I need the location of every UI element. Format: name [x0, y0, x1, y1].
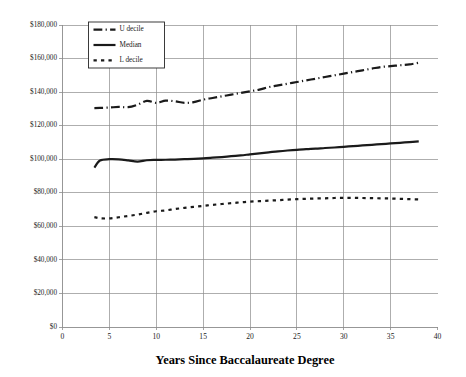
data-series-group [94, 63, 418, 219]
x-tick-label: 5 [107, 332, 111, 341]
gridlines-vertical [109, 25, 390, 327]
series-line-median [94, 141, 418, 167]
chart-canvas: $0$20,000$40,000$60,000$80,000$100,000$1… [0, 0, 466, 377]
x-axis-tick-marks [63, 327, 438, 330]
series-line-u-decile [94, 63, 418, 108]
x-tick-label: 35 [387, 332, 395, 341]
y-tick-label: $180,000 [30, 21, 57, 29]
legend-label-l-decile: L decile [120, 56, 143, 64]
y-tick-label: $80,000 [34, 188, 58, 196]
legend-label-median: Median [120, 41, 142, 49]
x-axis-tick-labels: 0510152025303540 [61, 332, 442, 341]
y-tick-label: $140,000 [30, 88, 57, 96]
y-tick-label: $40,000 [34, 256, 58, 264]
x-tick-label: 0 [61, 332, 65, 341]
x-tick-label: 30 [340, 332, 348, 341]
y-tick-label: $100,000 [30, 155, 57, 163]
y-axis-tick-marks [59, 25, 62, 327]
earnings-by-years-since-degree-chart: $0$20,000$40,000$60,000$80,000$100,000$1… [0, 0, 466, 377]
legend-label-u-decile: U decile [120, 25, 144, 33]
y-tick-label: $160,000 [30, 54, 57, 62]
x-tick-label: 25 [293, 332, 301, 341]
x-tick-label: 10 [152, 332, 160, 341]
y-tick-label: $60,000 [34, 222, 58, 230]
x-tick-label: 20 [246, 332, 254, 341]
y-tick-label: $0 [50, 323, 58, 331]
y-axis-tick-labels: $0$20,000$40,000$60,000$80,000$100,000$1… [30, 21, 57, 331]
series-line-l-decile [94, 198, 418, 219]
legend: U decileMedianL decile [89, 22, 165, 68]
y-tick-label: $20,000 [34, 289, 58, 297]
y-tick-label: $120,000 [30, 121, 57, 129]
x-tick-label: 40 [434, 332, 442, 341]
x-tick-label: 15 [199, 332, 207, 341]
x-axis-title: Years Since Baccalaureate Degree [156, 353, 335, 367]
